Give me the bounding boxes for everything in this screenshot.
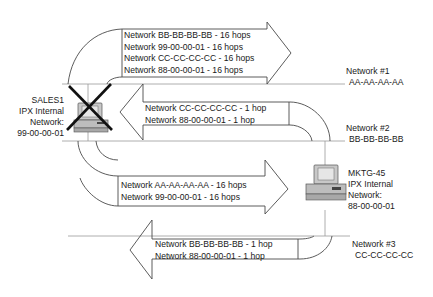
node-address: 99-00-00-01	[4, 128, 64, 139]
arrow-1-routes: Network BB-BB-BB-BB - 16 hops Network 99…	[124, 30, 254, 76]
network-name: Network #3	[352, 239, 413, 250]
node-name: SALES1	[4, 95, 64, 106]
route-entry: Network 99-00-00-01 - 16 hops	[124, 42, 254, 54]
network-address: BB-BB-BB-BB	[346, 134, 403, 145]
routing-diagram: Network BB-BB-BB-BB - 16 hops Network 99…	[0, 0, 433, 297]
mktg45-label: MKTG-45 IPX Internal Network: 88-00-00-0…	[348, 168, 395, 212]
arrow-3-routes: Network AA-AA-AA-AA - 16 hops Network 99…	[121, 180, 247, 203]
sales1-label: SALES1 IPX Internal Network: 99-00-00-01	[4, 95, 64, 139]
route-entry: Network AA-AA-AA-AA - 16 hops	[121, 180, 247, 192]
route-entry: Network 88-00-00-01 - 1 hop	[155, 251, 273, 263]
route-entry: Network CC-CC-CC-CC - 1 hop	[145, 103, 266, 115]
route-entry: Network 99-00-00-01 - 16 hops	[121, 192, 247, 204]
node-line: Network:	[4, 117, 64, 128]
route-entry: Network CC-CC-CC-CC - 16 hops	[124, 53, 254, 65]
network-2-label: Network #2 BB-BB-BB-BB	[346, 123, 403, 145]
route-entry: Network BB-BB-BB-BB - 16 hops	[124, 30, 254, 42]
node-line: Network:	[348, 190, 395, 201]
network-address: AA-AA-AA-AA	[346, 77, 403, 88]
route-entry: Network BB-BB-BB-BB - 1 hop	[155, 239, 273, 251]
mktg45-computer-icon	[306, 165, 346, 200]
arrow-4-routes: Network BB-BB-BB-BB - 1 hop Network 88-0…	[155, 239, 273, 262]
node-line: IPX Internal	[348, 179, 395, 190]
network-address: CC-CC-CC-CC	[352, 250, 413, 261]
node-line: IPX Internal	[4, 106, 64, 117]
route-entry: Network 88-00-00-01 - 16 hops	[124, 65, 254, 77]
network-1-label: Network #1 AA-AA-AA-AA	[346, 66, 403, 88]
node-address: 88-00-00-01	[348, 201, 395, 212]
arrow-2-routes: Network CC-CC-CC-CC - 1 hop Network 88-0…	[145, 103, 266, 126]
network-3-label: Network #3 CC-CC-CC-CC	[352, 239, 413, 261]
node-name: MKTG-45	[348, 168, 395, 179]
route-entry: Network 88-00-00-01 - 1 hop	[145, 115, 266, 127]
network-name: Network #1	[346, 66, 403, 77]
network-name: Network #2	[346, 123, 403, 134]
